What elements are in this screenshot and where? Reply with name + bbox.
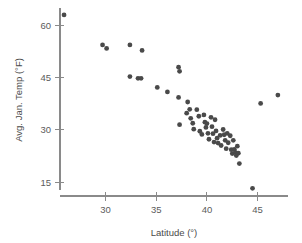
data-point bbox=[221, 127, 226, 132]
data-point bbox=[128, 43, 133, 48]
data-point bbox=[176, 95, 181, 100]
chart-canvas: 15304560 30354045 Latitude (°) Avg. Jan.… bbox=[0, 0, 302, 243]
data-point bbox=[188, 116, 193, 121]
y-tick-label: 60 bbox=[40, 20, 51, 31]
data-point bbox=[140, 48, 145, 53]
data-point bbox=[177, 122, 182, 127]
axes-group bbox=[60, 8, 288, 196]
data-point bbox=[205, 121, 210, 126]
data-point bbox=[191, 127, 196, 132]
data-point bbox=[235, 144, 240, 149]
data-point bbox=[228, 133, 233, 138]
data-point bbox=[210, 124, 215, 129]
data-point bbox=[236, 151, 241, 156]
data-point bbox=[104, 46, 109, 51]
data-point bbox=[209, 115, 214, 120]
data-point bbox=[226, 140, 231, 145]
data-point bbox=[184, 111, 189, 116]
y-tick-label: 45 bbox=[40, 72, 51, 83]
data-point bbox=[139, 76, 144, 81]
data-point bbox=[258, 101, 263, 106]
y-tick-label: 30 bbox=[40, 124, 51, 135]
data-point bbox=[212, 140, 217, 145]
data-point bbox=[194, 107, 199, 112]
data-point bbox=[155, 85, 160, 90]
data-point bbox=[100, 43, 105, 48]
data-point bbox=[231, 138, 236, 143]
data-point bbox=[206, 131, 211, 136]
y-axis-title: Avg. Jan. Temp (°F) bbox=[13, 58, 24, 142]
data-point bbox=[196, 114, 201, 119]
data-point bbox=[218, 133, 223, 138]
data-point bbox=[207, 137, 212, 142]
data-point bbox=[201, 112, 206, 117]
x-axis-title: Latitude (°) bbox=[151, 227, 198, 238]
data-point bbox=[213, 117, 218, 122]
data-point bbox=[165, 90, 170, 95]
data-point bbox=[128, 74, 133, 79]
data-point bbox=[177, 69, 182, 74]
data-point bbox=[275, 93, 280, 98]
data-point bbox=[185, 100, 190, 105]
data-points-layer bbox=[62, 13, 281, 191]
x-tick-label: 30 bbox=[100, 204, 111, 215]
data-point bbox=[219, 143, 224, 148]
data-point bbox=[199, 132, 204, 137]
data-point bbox=[224, 146, 229, 151]
data-point bbox=[176, 65, 181, 70]
x-tick-label: 35 bbox=[151, 204, 162, 215]
x-tick-label: 45 bbox=[252, 204, 263, 215]
data-point bbox=[62, 13, 67, 18]
data-point bbox=[187, 107, 192, 112]
scatter-chart: 15304560 30354045 Latitude (°) Avg. Jan.… bbox=[0, 0, 302, 243]
y-tick-label: 15 bbox=[40, 177, 51, 188]
data-point bbox=[250, 186, 255, 191]
data-point bbox=[190, 121, 195, 126]
data-point bbox=[214, 129, 219, 134]
data-point bbox=[237, 161, 242, 166]
x-tick-label: 40 bbox=[202, 204, 213, 215]
